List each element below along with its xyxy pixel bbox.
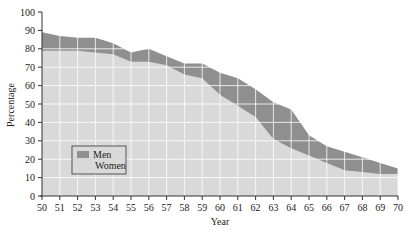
- legend-swatch-men: [77, 151, 89, 158]
- x-tick-label: 70: [393, 202, 403, 213]
- y-tick-label: 80: [25, 43, 35, 54]
- x-tick-label: 68: [357, 202, 367, 213]
- y-tick-label: 30: [25, 135, 35, 146]
- x-axis-title: Year: [211, 216, 230, 227]
- x-tick-label: 61: [233, 202, 243, 213]
- x-tick-label: 51: [55, 202, 65, 213]
- legend-label-men: Men: [93, 149, 111, 160]
- x-tick-label: 60: [215, 202, 225, 213]
- y-tick-label: 50: [25, 99, 35, 110]
- area-chart: 0102030405060708090100 50515253545556575…: [0, 0, 413, 237]
- x-tick-label: 58: [179, 202, 189, 213]
- y-tick-label: 100: [20, 7, 35, 18]
- y-tick-label: 0: [30, 191, 35, 202]
- x-tick-label: 52: [73, 202, 83, 213]
- y-tick-label: 20: [25, 154, 35, 165]
- y-tick-label: 60: [25, 80, 35, 91]
- x-tick-label: 65: [304, 202, 314, 213]
- y-tick-label: 90: [25, 25, 35, 36]
- x-tick-label: 67: [340, 202, 350, 213]
- x-tick-label: 50: [37, 202, 47, 213]
- legend-swatch-women: [77, 162, 89, 169]
- legend-label-women: Women: [95, 160, 126, 171]
- y-tick-label: 10: [25, 172, 35, 183]
- x-tick-label: 62: [251, 202, 261, 213]
- x-tick-label: 66: [322, 202, 332, 213]
- y-axis-title: Percentage: [5, 83, 16, 127]
- x-tick-label: 63: [268, 202, 278, 213]
- x-tick-label: 59: [197, 202, 207, 213]
- x-tick-label: 57: [162, 202, 172, 213]
- x-tick-label: 69: [375, 202, 385, 213]
- x-tick-label: 53: [90, 202, 100, 213]
- x-tick-label: 56: [144, 202, 154, 213]
- x-tick-label: 54: [108, 202, 118, 213]
- y-axis: 0102030405060708090100: [20, 7, 42, 202]
- y-tick-label: 70: [25, 62, 35, 73]
- x-axis: 5051525354555657585960616263646566676869…: [37, 196, 403, 213]
- y-tick-label: 40: [25, 117, 35, 128]
- legend: Men Women: [72, 146, 126, 174]
- x-tick-label: 64: [286, 202, 296, 213]
- x-tick-label: 55: [126, 202, 136, 213]
